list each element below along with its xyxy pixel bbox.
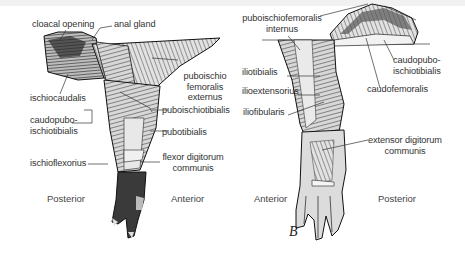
label-line-2: communis <box>160 163 226 174</box>
label-line-2: femoralis <box>180 82 230 93</box>
label-caudopuboischiotibialis-right: caudopubo- ischiotibialis <box>393 55 441 76</box>
label-line-2: ischiotibialis <box>30 126 78 137</box>
label-ischioflexorius: ischioflexorius <box>30 158 86 169</box>
label-iliofibularis: iliofibularis <box>243 107 285 118</box>
direction-anterior-left: Anterior <box>171 193 204 204</box>
direction-anterior-right: Anterior <box>254 193 287 204</box>
figure-letter: B <box>289 224 298 240</box>
label-line-2: ischiotibialis <box>393 66 441 77</box>
label-puboischiofemoralis-internus: puboischiofemoralis internus <box>241 13 323 34</box>
label-line-1: caudopubo- <box>30 115 78 126</box>
label-pubotibialis: pubotibialis <box>162 127 207 138</box>
label-extensor-digitorum-communis: extensor digitorum communis <box>366 135 444 156</box>
label-line-1: caudopubo- <box>393 55 441 66</box>
label-line-1: puboischio <box>180 71 230 82</box>
label-puboischiofemoralis-externus: puboischio femoralis externus <box>180 71 230 103</box>
label-line-2: communis <box>366 146 444 157</box>
label-line-2: internus <box>241 24 323 35</box>
label-puboischiotibialis: puboischiotibialis <box>162 105 230 116</box>
label-line-1: puboischiofemoralis <box>241 13 323 24</box>
right-limb-drawing <box>262 4 430 240</box>
label-line-1: flexor digitorum <box>160 152 226 163</box>
label-ilioextensorius: ilioextensorius <box>242 86 299 97</box>
label-ischiocaudalis: ischiocaudalis <box>30 93 86 104</box>
label-caudofemoralis: caudofemoralis <box>367 84 428 95</box>
label-anal-gland: anal gland <box>114 19 155 30</box>
label-cloacal-opening: cloacal opening <box>32 19 94 30</box>
direction-posterior-left: Posterior <box>47 193 85 204</box>
label-line-3: externus <box>180 92 230 103</box>
label-line-1: extensor digitorum <box>366 135 444 146</box>
label-iliotibialis: iliotibialis <box>242 67 278 78</box>
label-caudopuboischiotibialis-left: caudopubo- ischiotibialis <box>30 115 78 136</box>
direction-posterior-right: Posterior <box>378 193 416 204</box>
label-flexor-digitorum-communis: flexor digitorum communis <box>160 152 226 173</box>
